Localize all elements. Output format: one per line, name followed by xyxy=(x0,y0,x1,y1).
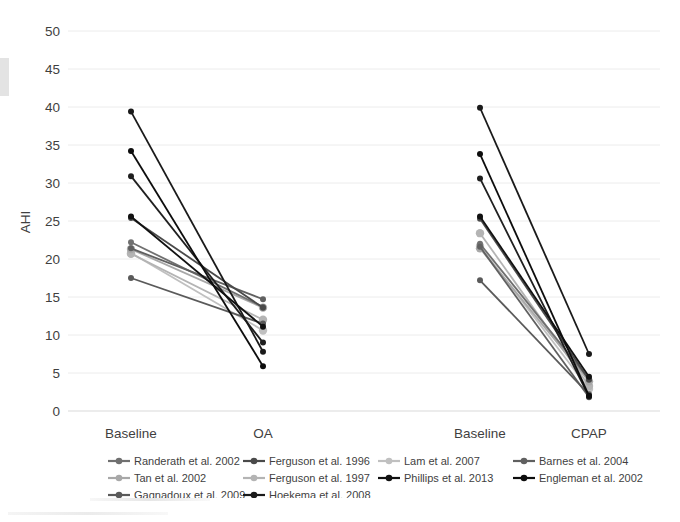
series-cpap xyxy=(477,241,592,382)
legend-label: Randerath et al. 2002 xyxy=(134,455,240,467)
legend-marker xyxy=(386,458,393,465)
y-tick-label: 35 xyxy=(45,138,60,153)
chart-legend: Randerath et al. 2002Ferguson et al. 199… xyxy=(108,455,643,500)
legend-label: Barnes et al. 2004 xyxy=(539,455,628,467)
x-tick-label: OA xyxy=(253,426,273,441)
x-tick-label: Baseline xyxy=(454,426,506,441)
data-point xyxy=(260,324,266,330)
series-line xyxy=(480,247,589,397)
data-point xyxy=(477,244,483,250)
legend-marker xyxy=(116,458,123,465)
x-tick-label: CPAP xyxy=(571,426,607,441)
series-cpap xyxy=(477,216,592,383)
legend-label: Engleman et al. 2002 xyxy=(539,472,643,484)
legend-item[interactable]: Tan et al. 2002 xyxy=(108,472,206,484)
y-axis-title: AHI xyxy=(18,211,33,234)
x-tick-label: Baseline xyxy=(105,426,157,441)
y-tick-label: 0 xyxy=(52,404,60,419)
data-point xyxy=(586,374,592,380)
y-axis-tick-labels: 05101520253035404550 xyxy=(45,24,60,419)
data-point xyxy=(128,213,134,219)
series-layer xyxy=(127,105,593,401)
legend-item[interactable]: Phillips et al. 2013 xyxy=(378,472,493,484)
y-tick-label: 50 xyxy=(45,24,60,39)
y-tick-label: 25 xyxy=(45,214,60,229)
y-tick-label: 40 xyxy=(45,100,60,115)
legend-label: Ferguson et al. 1997 xyxy=(269,472,370,484)
data-point xyxy=(477,277,483,283)
legend-item[interactable]: Lam et al. 2007 xyxy=(378,455,480,467)
data-point xyxy=(477,213,483,219)
data-point xyxy=(260,349,266,355)
legend-item[interactable]: Engleman et al. 2002 xyxy=(513,472,643,484)
legend-marker xyxy=(386,475,393,482)
y-tick-label: 5 xyxy=(52,366,60,381)
data-point xyxy=(477,105,483,111)
legend-label: Tan et al. 2002 xyxy=(134,472,206,484)
data-point xyxy=(260,296,266,302)
series-line xyxy=(480,178,589,396)
y-tick-label: 15 xyxy=(45,290,60,305)
series-oa xyxy=(128,245,266,302)
legend-marker xyxy=(521,475,528,482)
data-point xyxy=(128,173,134,179)
data-point xyxy=(260,305,266,311)
data-point xyxy=(128,109,134,115)
legend-label: Ferguson et al. 1996 xyxy=(269,455,370,467)
y-tick-label: 45 xyxy=(45,62,60,77)
data-point xyxy=(586,351,592,357)
chart-figure: 05101520253035404550 AHI BaselineOABasel… xyxy=(0,0,680,522)
legend-marker xyxy=(116,475,123,482)
data-point xyxy=(128,275,134,281)
series-line xyxy=(480,154,589,396)
y-tick-label: 30 xyxy=(45,176,60,191)
data-point xyxy=(128,148,134,154)
series-cpap xyxy=(477,105,592,357)
x-axis-tick-labels: BaselineOABaselineCPAP xyxy=(105,426,607,441)
legend-marker xyxy=(251,475,258,482)
legend-item[interactable]: Ferguson et al. 1996 xyxy=(243,455,370,467)
data-point xyxy=(477,151,483,157)
legend-item[interactable]: Randerath et al. 2002 xyxy=(108,455,240,467)
y-tick-label: 20 xyxy=(45,252,60,267)
legend-item[interactable]: Barnes et al. 2004 xyxy=(513,455,628,467)
data-point xyxy=(128,239,134,245)
scan-bottom-artifact xyxy=(0,498,680,522)
series-line xyxy=(480,219,589,380)
slope-chart: 05101520253035404550 AHI BaselineOABasel… xyxy=(0,0,680,500)
scan-smudge-line xyxy=(8,512,168,515)
data-point xyxy=(476,229,484,237)
data-point xyxy=(260,363,266,369)
data-point xyxy=(477,175,483,181)
legend-marker xyxy=(251,458,258,465)
legend-item[interactable]: Ferguson et al. 1997 xyxy=(243,472,370,484)
data-point xyxy=(260,340,266,346)
scan-smudge-line-2 xyxy=(90,498,210,501)
scan-edge-artifact xyxy=(0,58,9,96)
data-point xyxy=(586,393,592,399)
y-tick-label: 10 xyxy=(45,328,60,343)
data-point xyxy=(128,245,134,251)
legend-marker xyxy=(521,458,528,465)
legend-label: Lam et al. 2007 xyxy=(404,455,480,467)
legend-label: Phillips et al. 2013 xyxy=(404,472,493,484)
